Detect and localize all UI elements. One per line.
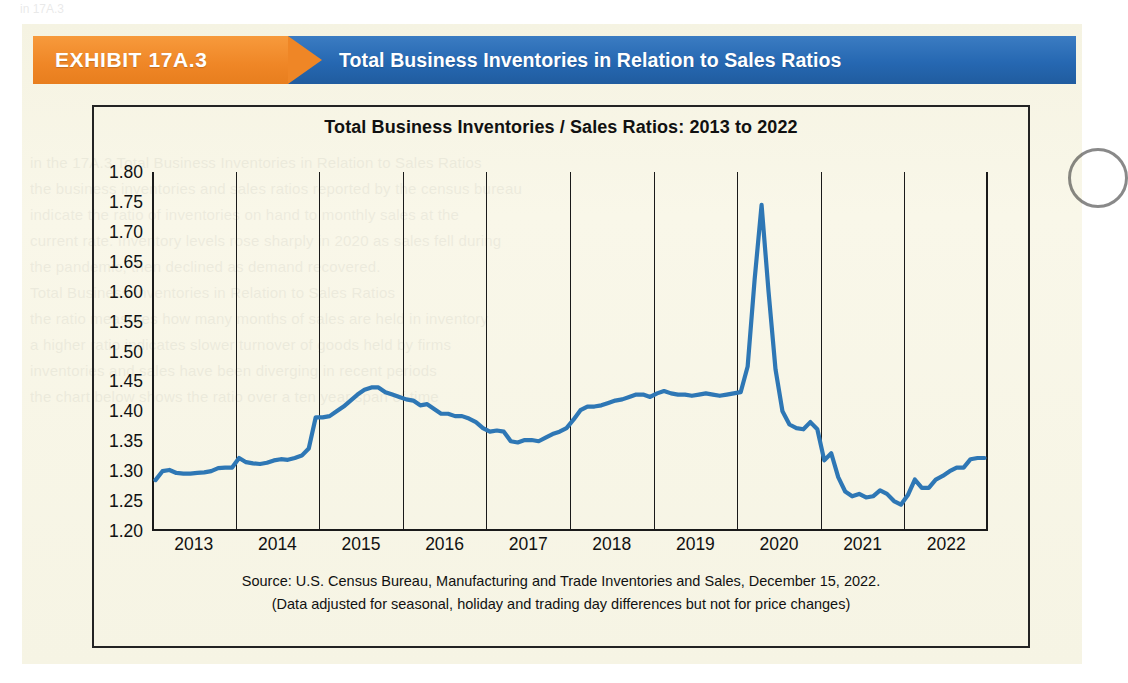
x-tick-label: 2018 [567,534,657,555]
y-tick-label: 1.30 [73,461,152,482]
source-note-line-2: (Data adjusted for seasonal, holiday and… [94,596,1028,612]
y-tick-label: 1.35 [73,431,152,452]
x-tick-label: 2016 [400,534,490,555]
plot-area: 1.801.751.701.651.601.551.501.451.401.35… [152,172,988,531]
y-tick-label: 1.80 [73,162,152,183]
banner-arrow-icon [288,36,322,84]
exhibit-banner: EXHIBIT 17A.3 Total Business Inventories… [33,36,1076,84]
y-tick-label: 1.55 [73,311,152,332]
y-tick-label: 1.20 [73,521,152,542]
y-tick-label: 1.75 [73,191,152,212]
y-tick-label: 1.65 [73,251,152,272]
page-right-edge [1082,0,1107,683]
page-curl-arc [1068,148,1128,208]
exhibit-title: Total Business Inventories in Relation t… [339,36,841,84]
x-tick-label: 2014 [232,534,322,555]
y-tick-label: 1.40 [73,401,152,422]
x-tick-label: 2020 [734,534,824,555]
x-tick-label: 2013 [149,534,239,555]
y-tick-label: 1.45 [73,371,152,392]
page-top-smudge: in 17A.3 [20,2,320,16]
x-tick-label: 2021 [818,534,908,555]
chart-container: Total Business Inventories / Sales Ratio… [92,105,1030,648]
x-tick-label: 2022 [901,534,991,555]
chart-title: Total Business Inventories / Sales Ratio… [94,117,1028,138]
source-note-line-1: Source: U.S. Census Bureau, Manufacturin… [94,573,1028,589]
x-tick-label: 2019 [650,534,740,555]
y-tick-label: 1.70 [73,221,152,242]
y-tick-label: 1.25 [73,491,152,512]
series-line [155,205,984,505]
data-line-series [152,172,988,531]
exhibit-number-label: EXHIBIT 17A.3 [55,36,208,84]
x-tick-label: 2017 [483,534,573,555]
x-tick-label: 2015 [316,534,406,555]
y-tick-label: 1.50 [73,341,152,362]
y-tick-label: 1.60 [73,281,152,302]
